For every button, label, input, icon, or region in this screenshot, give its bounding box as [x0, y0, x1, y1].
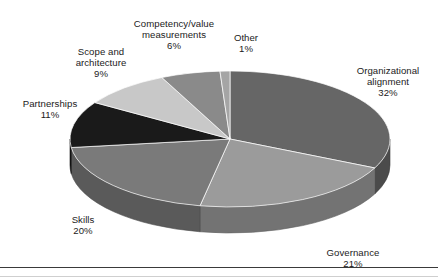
footer-divider — [0, 267, 438, 268]
pie-top-faces — [70, 71, 390, 207]
pie-chart-graphic — [0, 0, 438, 278]
footer-divider-secondary — [0, 276, 438, 277]
pie-chart-figure: Competency/value measurements 6% Other 1… — [0, 0, 438, 278]
